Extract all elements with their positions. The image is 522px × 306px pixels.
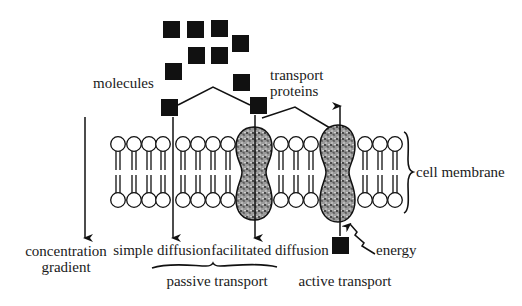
molecule-square	[187, 21, 204, 38]
active-transport-label: active transport	[299, 273, 393, 289]
molecule-square	[211, 20, 228, 37]
concentration-gradient-label-line1: concentration	[25, 243, 107, 259]
simple-diffusion-label: simple diffusion	[113, 242, 211, 258]
energy-lightning-arrow	[350, 224, 375, 254]
facilitated-transport-protein	[236, 127, 272, 220]
energy-label: energy	[376, 242, 417, 258]
passive-transport-brace	[152, 263, 277, 268]
facilitated-diffusion-label: facilitated diffusion	[211, 242, 329, 258]
transport-proteins-pointer	[262, 107, 330, 128]
molecule-square	[188, 47, 205, 64]
cell-membrane-label: cell membrane	[416, 164, 505, 180]
passive-transport-label: passive transport	[166, 273, 268, 289]
molecule-square	[233, 74, 250, 91]
molecule-square	[232, 35, 249, 52]
transport-proteins-label-line1: transport	[270, 67, 324, 83]
active-transport-molecule	[332, 237, 349, 254]
molecule-square	[163, 21, 180, 38]
molecule-square	[165, 63, 182, 80]
cell-membrane-transport-diagram: molecules transport proteins cell membra…	[0, 0, 522, 306]
molecules-label: molecules	[93, 75, 154, 91]
molecule-square	[250, 97, 267, 114]
molecule-square	[211, 47, 228, 64]
concentration-gradient-label-line2: gradient	[41, 259, 91, 275]
molecule-square	[161, 99, 178, 116]
cell-membrane-brace	[404, 132, 413, 213]
active-transport-protein	[320, 125, 355, 222]
transport-proteins-label-line2: proteins	[270, 83, 318, 99]
